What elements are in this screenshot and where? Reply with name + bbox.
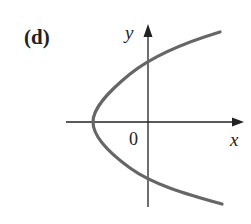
y-axis-label: y (123, 22, 134, 43)
graph: (d) y x 0 (0, 0, 251, 224)
y-axis-arrow-icon (144, 24, 153, 37)
parabola-curve (93, 32, 222, 204)
panel-label: (d) (24, 25, 50, 49)
x-axis-arrow-icon (232, 118, 244, 127)
origin-label: 0 (129, 129, 138, 149)
x-axis-label: x (229, 129, 239, 150)
